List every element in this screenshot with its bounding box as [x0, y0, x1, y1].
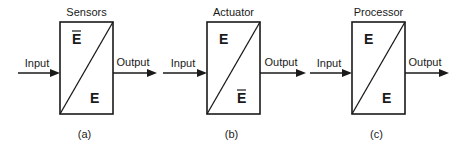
block-sensors: SensorsEEInputOutput(a) [18, 6, 157, 140]
output-label: Output [408, 56, 441, 68]
block-caption: (a) [78, 128, 91, 140]
output-label: Output [116, 56, 149, 68]
input-arrow-head [342, 69, 352, 77]
block-title: Actuator [213, 6, 254, 18]
block-caption: (c) [370, 128, 383, 140]
input-arrow-head [50, 69, 60, 77]
block-processor: ProcessorEEInputOutput(c) [310, 6, 449, 140]
lower-energy-symbol: E [237, 90, 246, 106]
lower-energy-symbol: E [90, 90, 99, 106]
output-label: Output [264, 56, 297, 68]
block-diagonal [60, 22, 113, 114]
block-title: Sensors [66, 6, 107, 18]
block-diagonal [207, 22, 260, 114]
upper-energy-symbol: E [364, 31, 373, 47]
input-arrow-head [197, 69, 207, 77]
input-label: Input [317, 57, 341, 69]
block-diagonal [352, 22, 405, 114]
block-title: Processor [354, 6, 404, 18]
input-label: Input [25, 57, 49, 69]
lower-energy-symbol: E [382, 90, 391, 106]
block-actuator: ActuatorEEInputOutput(b) [163, 6, 306, 140]
input-label: Input [171, 57, 195, 69]
upper-energy-symbol: E [72, 31, 81, 47]
block-caption: (b) [225, 128, 238, 140]
upper-energy-symbol: E [219, 31, 228, 47]
output-arrow-head [147, 69, 157, 77]
transducer-diagram: SensorsEEInputOutput(a)ActuatorEEInputOu… [0, 0, 465, 150]
output-arrow-head [296, 69, 306, 77]
output-arrow-head [439, 69, 449, 77]
